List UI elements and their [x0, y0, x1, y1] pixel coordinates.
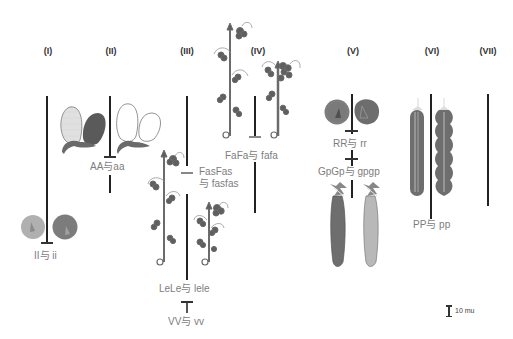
seed-yellow-icon	[21, 215, 45, 239]
seed-green-icon	[53, 215, 78, 240]
flower-colored-icon	[61, 107, 106, 154]
trait-illustrations	[0, 0, 513, 339]
plant-normal-stem-icon	[148, 150, 184, 265]
seed-wrinkled-icon	[354, 99, 379, 124]
seed-round-icon	[325, 100, 350, 125]
pod-constricted-icon	[435, 98, 453, 196]
pod-yellow-icon	[363, 182, 380, 267]
pod-green-icon	[330, 182, 347, 267]
plant-terminal-flowers-icon	[262, 61, 300, 138]
plant-axial-flowers-icon	[214, 22, 252, 138]
flower-white-icon	[117, 104, 161, 154]
pod-inflated-icon	[410, 98, 424, 196]
plant-fasciated-icon	[194, 202, 228, 265]
